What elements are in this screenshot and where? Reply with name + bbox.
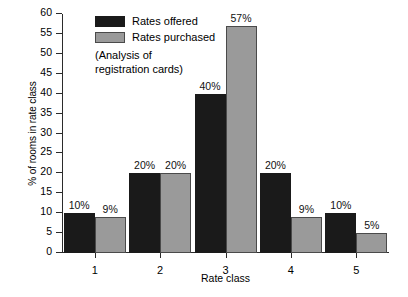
bar-value-label: 10% [69, 199, 90, 211]
bar-value-label: 20% [134, 159, 155, 171]
bar-chart: % of rooms in rate class 051015202530354… [0, 0, 408, 297]
legend-swatch-icon [95, 32, 125, 43]
bar-purchased-class-2 [160, 173, 191, 253]
bar-offered-class-1 [64, 213, 95, 253]
y-axis-tick-label: 10 [40, 205, 52, 218]
chart-annotation: (Analysis ofregistration cards) [95, 48, 183, 76]
y-axis-tick-label: 35 [40, 106, 52, 119]
legend-label: Rates offered [132, 15, 198, 28]
bar-value-label: 9% [103, 203, 118, 215]
y-axis-tick: 45 [56, 73, 62, 74]
y-axis-tick: 20 [56, 172, 62, 173]
y-axis-tick: 0 [56, 252, 62, 253]
x-axis-tick [95, 253, 96, 258]
y-axis-tick-label: 5 [46, 225, 52, 238]
x-axis-tick [160, 253, 161, 258]
bar-purchased-class-3 [226, 26, 257, 253]
y-axis-tick-label: 55 [40, 26, 52, 39]
y-axis-title: % of rooms in rate class [27, 39, 38, 229]
chart-legend: Rates offeredRates purchased [95, 14, 215, 46]
y-axis-tick: 40 [56, 93, 62, 94]
bar-value-label: 5% [364, 219, 379, 231]
bar-purchased-class-5 [356, 233, 387, 253]
y-axis-tick-label: 45 [40, 66, 52, 79]
legend-item-offered: Rates offered [95, 14, 215, 29]
x-axis-tick [291, 253, 292, 258]
y-axis-tick: 35 [56, 113, 62, 114]
bar-offered-class-4 [260, 173, 291, 253]
annotation-line: (Analysis of [95, 48, 183, 62]
y-axis-tick-label: 25 [40, 145, 52, 158]
y-axis-tick-label: 15 [40, 185, 52, 198]
y-axis-tick-label: 20 [40, 165, 52, 178]
x-axis-tick [226, 253, 227, 258]
y-axis-tick: 55 [56, 33, 62, 34]
y-axis-tick-label: 60 [40, 6, 52, 19]
annotation-line: registration cards) [95, 62, 183, 76]
legend-item-purchased: Rates purchased [95, 30, 215, 45]
bar-offered-class-3 [195, 94, 226, 253]
bar-value-label: 20% [265, 159, 286, 171]
y-axis-tick-label: 0 [46, 245, 52, 258]
bar-value-label: 10% [330, 199, 351, 211]
legend-label: Rates purchased [132, 31, 215, 44]
bar-offered-class-5 [325, 213, 356, 253]
bar-purchased-class-4 [291, 217, 322, 253]
y-axis-tick: 50 [56, 53, 62, 54]
y-axis-tick-label: 30 [40, 126, 52, 139]
bar-offered-class-2 [129, 173, 160, 253]
y-axis-tick: 25 [56, 152, 62, 153]
y-axis-tick: 30 [56, 133, 62, 134]
bar-value-label: 9% [299, 203, 314, 215]
y-axis-tick: 5 [56, 232, 62, 233]
bar-value-label: 40% [199, 80, 220, 92]
bar-value-label: 20% [165, 159, 186, 171]
legend-swatch-icon [95, 16, 125, 27]
bar-purchased-class-1 [95, 217, 126, 253]
x-axis-tick [356, 253, 357, 258]
y-axis-tick-label: 50 [40, 46, 52, 59]
y-axis-tick-label: 40 [40, 86, 52, 99]
y-axis-tick: 60 [56, 13, 62, 14]
bar-value-label: 57% [230, 12, 251, 24]
y-axis-tick: 10 [56, 212, 62, 213]
y-axis-tick: 15 [56, 192, 62, 193]
x-axis-title: Rate class [62, 272, 389, 284]
